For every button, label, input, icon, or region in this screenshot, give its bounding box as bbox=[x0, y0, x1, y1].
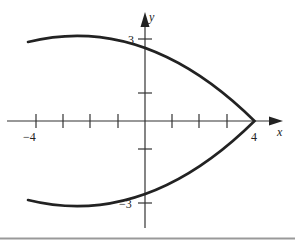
x-tick-label-neg4: −4 bbox=[23, 130, 36, 144]
x-axis-label: x bbox=[276, 125, 283, 139]
x-tick-label-4: 4 bbox=[251, 130, 257, 144]
y-axis-label: y bbox=[148, 10, 155, 24]
parabola-chart: y x −4 4 3 −3 bbox=[0, 0, 295, 240]
y-tick-label-neg3: −3 bbox=[119, 197, 132, 211]
y-tick-label-3: 3 bbox=[128, 33, 134, 47]
